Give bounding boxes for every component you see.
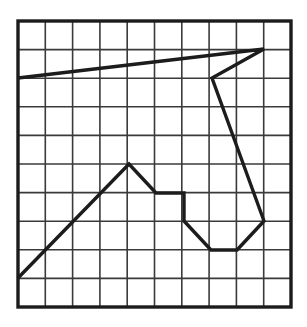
grid-polyline-svg <box>0 0 307 327</box>
figure-root <box>0 0 307 327</box>
